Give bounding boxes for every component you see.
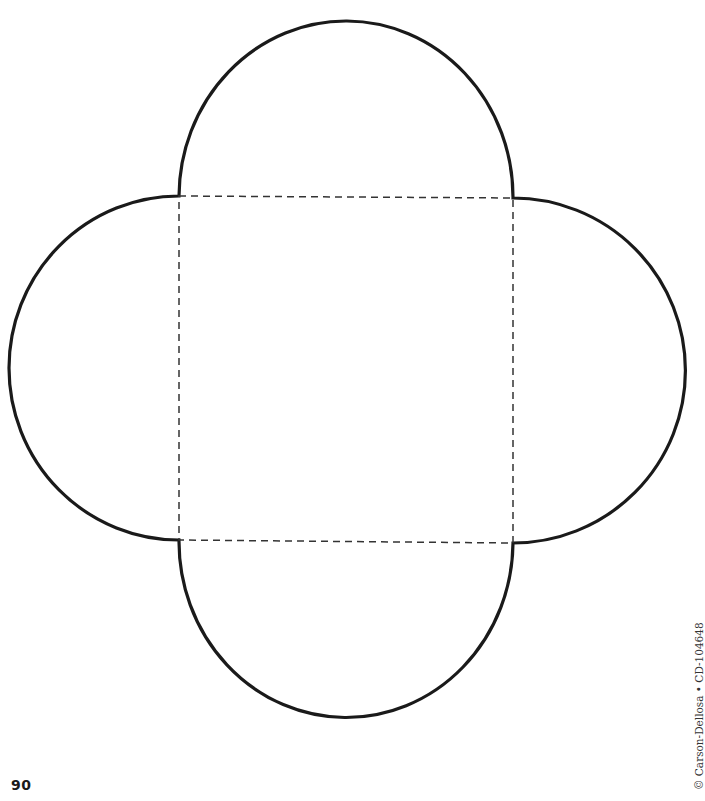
page-number: 90 [11, 777, 31, 793]
cut-outline [9, 21, 685, 718]
fold-line-square [179, 196, 513, 543]
envelope-template [0, 0, 705, 801]
copyright-notice: © Carson-Dellosa • CD-104648 [693, 622, 705, 790]
